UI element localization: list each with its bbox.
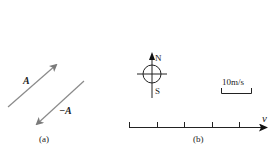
vector-neg-a-arrow [37, 81, 84, 124]
scale-label: 10m/s [222, 77, 245, 87]
axis-ticks [130, 122, 240, 128]
caption-a: (a) [39, 134, 49, 144]
vector-a-label: A [22, 75, 30, 86]
vector-a-arrow [8, 65, 56, 107]
vector-neg-a-label: −A [59, 105, 72, 116]
scale-bar [222, 88, 252, 94]
diagram: A −A (a) N S 10m/s v (b) [0, 0, 274, 159]
panel-a: A −A (a) [8, 65, 84, 144]
velocity-axis-label: v [262, 112, 267, 124]
compass-south-label: S [155, 86, 160, 96]
compass-icon [137, 52, 167, 98]
caption-b: (b) [193, 134, 204, 144]
compass-north-label: N [155, 53, 162, 63]
panel-b: N S 10m/s v (b) [129, 52, 267, 144]
